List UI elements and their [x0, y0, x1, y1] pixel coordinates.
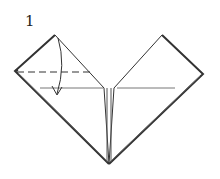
- left-square-flap: [15, 35, 109, 164]
- right-square-flap: [109, 35, 203, 164]
- origami-diagram: [0, 0, 220, 179]
